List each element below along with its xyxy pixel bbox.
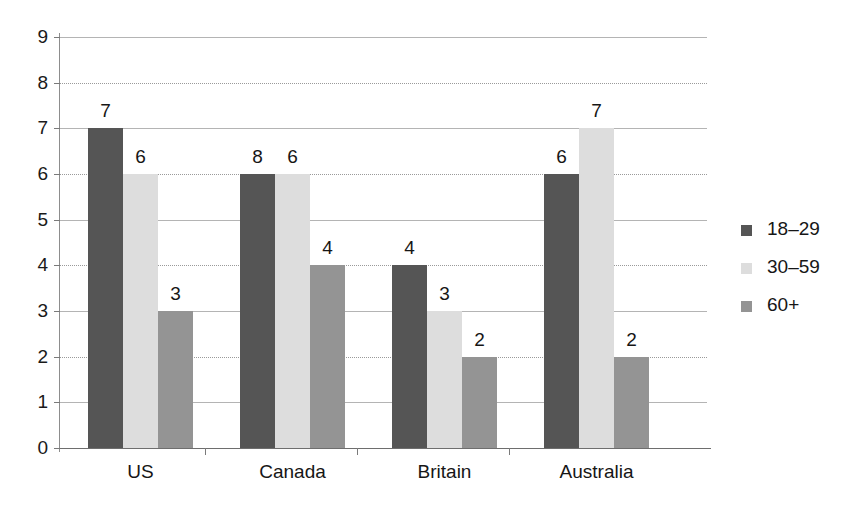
bar-value-label: 4 [298,238,357,257]
y-axis-label-8: 8 [28,73,48,92]
bar-value-label: 2 [450,330,509,349]
y-axis-label-0: 0 [28,438,48,457]
y-axis-tick-labels: 0123456789 [14,0,48,514]
bar-us-18_29 [88,128,123,448]
y-tick-7 [54,128,60,129]
bar-australia-30_59 [579,128,614,448]
bar-britain-60+ [462,357,497,448]
x-axis-label-australia: Australia [514,462,679,481]
bar-value-label: 6 [111,147,170,166]
y-tick-3 [54,311,60,312]
bar-value-label: 6 [532,147,591,166]
y-tick-8 [54,83,60,84]
bar-value-label: 3 [146,284,205,303]
y-tick-1 [54,402,60,403]
x-tick-1 [205,448,206,455]
legend-item-18_29[interactable]: 18–29 [741,219,841,257]
legend-label: 18–29 [767,219,820,239]
y-axis-label-1: 1 [28,392,48,411]
gridline-9 [59,37,707,38]
x-axis-label-canada: Canada [210,462,375,481]
y-tick-5 [54,220,60,221]
bar-value-label: 2 [602,330,661,349]
bar-chart-screenshot: 0123456789 USCanadaBritainAustralia 7638… [0,0,847,514]
y-tick-0 [54,448,60,449]
y-axis-label-9: 9 [28,27,48,46]
x-tick-2 [357,448,358,455]
legend-item-60+[interactable]: 60+ [741,295,841,333]
bar-australia-18_29 [544,174,579,448]
y-tick-2 [54,357,60,358]
x-axis-line [55,448,711,449]
legend-swatch-icon [741,263,752,274]
bar-canada-18_29 [240,174,275,448]
bar-canada-30_59 [275,174,310,448]
legend-label: 60+ [767,295,799,315]
legend-swatch-icon [741,225,752,236]
y-axis-label-6: 6 [28,164,48,183]
bar-value-label: 6 [263,147,322,166]
legend-swatch-icon [741,301,752,312]
gridline-8 [59,83,707,84]
y-tick-6 [54,174,60,175]
legend-label: 30–59 [767,257,820,277]
bar-canada-60+ [310,265,345,448]
bar-value-label: 3 [415,284,474,303]
y-axis-label-5: 5 [28,210,48,229]
x-axis-label-britain: Britain [362,462,527,481]
y-tick-4 [54,265,60,266]
legend: 18–2930–5960+ [741,219,841,333]
y-axis-label-3: 3 [28,301,48,320]
y-axis-label-4: 4 [28,255,48,274]
bar-us-30_59 [123,174,158,448]
y-axis-label-2: 2 [28,347,48,366]
legend-item-30_59[interactable]: 30–59 [741,257,841,295]
bar-value-label: 7 [76,101,135,120]
bar-australia-60+ [614,357,649,448]
bar-us-60+ [158,311,193,448]
bar-value-label: 7 [567,101,626,120]
y-tick-9 [54,37,60,38]
y-axis-line [59,33,60,452]
x-tick-3 [509,448,510,455]
y-axis-label-7: 7 [28,118,48,137]
x-axis-label-us: US [58,462,223,481]
bar-value-label: 4 [380,238,439,257]
